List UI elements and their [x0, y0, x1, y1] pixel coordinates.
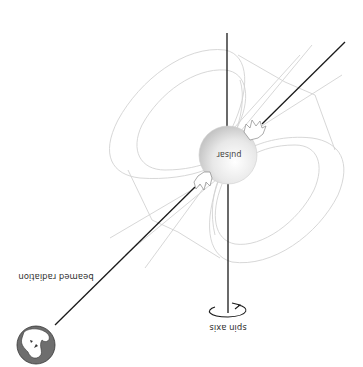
beam-line-bottom — [55, 187, 195, 325]
beamed-radiation-label: beamed radiation — [18, 272, 93, 282]
pulsar-diagram: pulsar spin axis beamed radiation — [0, 0, 363, 367]
pulsar-label: pulsar — [216, 150, 241, 159]
earth-globe-icon — [17, 326, 55, 364]
emission-burst-bottom-icon — [194, 172, 212, 190]
spin-axis-label: spin axis — [209, 323, 247, 333]
